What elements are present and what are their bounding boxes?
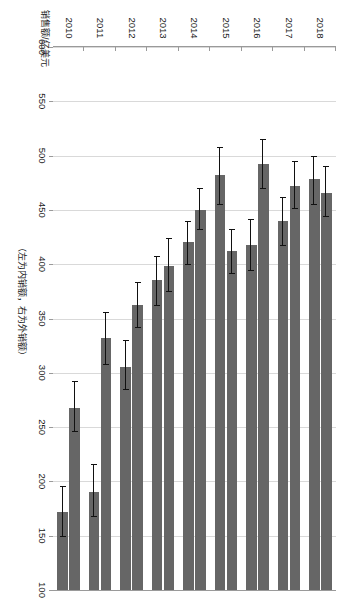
bar-2016-外销额 (258, 164, 269, 590)
error-bar-2017-外销额 (294, 161, 295, 208)
tickmark-300 (49, 373, 53, 374)
value-tick-label: 550 (37, 93, 48, 109)
bar-2013-内销额 (152, 280, 163, 590)
category-label-2014: 2014 (190, 17, 201, 38)
error-cap-low (229, 229, 235, 230)
tickmark-250 (49, 427, 53, 428)
error-cap-low (217, 147, 223, 148)
category-tick (146, 46, 147, 51)
error-cap-low (248, 219, 254, 220)
tickmark-500 (49, 156, 53, 157)
error-cap-high (123, 389, 129, 390)
error-cap-high (229, 273, 235, 274)
error-bar-2010-外销额 (74, 381, 75, 431)
bar-2014-外销额 (195, 210, 206, 590)
error-bar-2016-外销额 (262, 139, 263, 188)
error-cap-low (103, 312, 109, 313)
plot-area: 600550500450400350300250200150100 (53, 47, 336, 590)
error-cap-low (280, 197, 286, 198)
error-bar-2015-外销额 (231, 229, 232, 272)
error-cap-high (103, 364, 109, 365)
error-bar-2013-外销额 (168, 238, 169, 291)
error-cap-low (154, 256, 160, 257)
value-tick-label: 600 (37, 39, 48, 55)
bar-2012-外销额 (132, 305, 143, 590)
error-cap-high (248, 270, 254, 271)
error-bar-2016-内销额 (250, 219, 251, 270)
category-tick (272, 46, 273, 51)
error-cap-low (166, 238, 172, 239)
category-label-2013: 2013 (158, 17, 169, 38)
bar-2018-外销额 (321, 193, 332, 590)
category-label-2012: 2012 (127, 17, 138, 38)
category-tick (83, 46, 84, 51)
category-label-2010: 2010 (64, 17, 75, 38)
error-cap-low (198, 188, 204, 189)
error-cap-low (91, 464, 97, 465)
error-cap-low (186, 221, 192, 222)
category-tick (241, 46, 242, 51)
gridline-600 (53, 47, 336, 48)
tickmark-200 (49, 481, 53, 482)
error-cap-high (91, 516, 97, 517)
category-tick (304, 46, 305, 51)
error-cap-high (154, 305, 160, 306)
error-bar-2012-内销额 (125, 340, 126, 389)
error-bar-2014-内销额 (188, 221, 189, 264)
category-tick (115, 46, 116, 51)
bar-2016-内销额 (246, 245, 257, 590)
error-cap-high (60, 536, 66, 537)
error-cap-low (323, 166, 329, 167)
category-label-2015: 2015 (221, 17, 232, 38)
value-tick-label: 300 (37, 365, 48, 381)
tickmark-150 (49, 536, 53, 537)
error-bar-2014-外销额 (200, 188, 201, 229)
category-tick (335, 46, 336, 51)
tickmark-100 (49, 590, 53, 591)
error-cap-high (186, 264, 192, 265)
rotated-chart-wrapper: 销售额/亿美元 （左为内销额，右为外销额） 600550500450400350… (0, 0, 352, 603)
tickmark-450 (49, 210, 53, 211)
error-bar-2018-内销额 (313, 156, 314, 205)
bar-2013-外销额 (164, 266, 175, 590)
error-cap-low (72, 381, 78, 382)
error-bar-2017-内销额 (282, 197, 283, 245)
error-cap-low (123, 340, 129, 341)
error-bar-2011-外销额 (105, 312, 106, 364)
value-tick-label: 500 (37, 148, 48, 164)
gridline-100 (53, 590, 336, 591)
error-bar-2010-内销额 (62, 486, 63, 536)
tickmark-600 (49, 47, 53, 48)
bar-2015-外销额 (227, 251, 238, 590)
bar-2012-内销额 (120, 367, 131, 590)
error-cap-high (260, 188, 266, 189)
value-tick-label: 400 (37, 256, 48, 272)
error-bar-2013-内销额 (156, 256, 157, 306)
error-cap-high (72, 431, 78, 432)
value-tick-label: 200 (37, 473, 48, 489)
error-cap-high (166, 291, 172, 292)
error-cap-high (217, 204, 223, 205)
bar-2010-内销额 (57, 512, 68, 590)
gridline-500 (53, 156, 336, 157)
error-cap-high (311, 204, 317, 205)
category-label-2017: 2017 (284, 17, 295, 38)
tickmark-400 (49, 264, 53, 265)
chart-root: 销售额/亿美元 （左为内销额，右为外销额） 600550500450400350… (0, 0, 352, 603)
error-cap-high (135, 327, 141, 328)
error-cap-high (323, 216, 329, 217)
error-cap-low (135, 282, 141, 283)
bar-2017-内销额 (278, 221, 289, 590)
bar-2010-外销额 (69, 408, 80, 590)
tickmark-550 (49, 101, 53, 102)
error-cap-low (292, 161, 298, 162)
error-cap-low (260, 139, 266, 140)
error-cap-high (280, 245, 286, 246)
error-cap-low (60, 486, 66, 487)
bar-2015-内销额 (215, 175, 226, 590)
bar-2017-外销额 (290, 186, 301, 590)
value-tick-label: 100 (37, 582, 48, 598)
value-tick-label: 350 (37, 311, 48, 327)
chart-note: （左为内销额，右为外销额） (16, 243, 29, 360)
error-cap-low (311, 156, 317, 157)
